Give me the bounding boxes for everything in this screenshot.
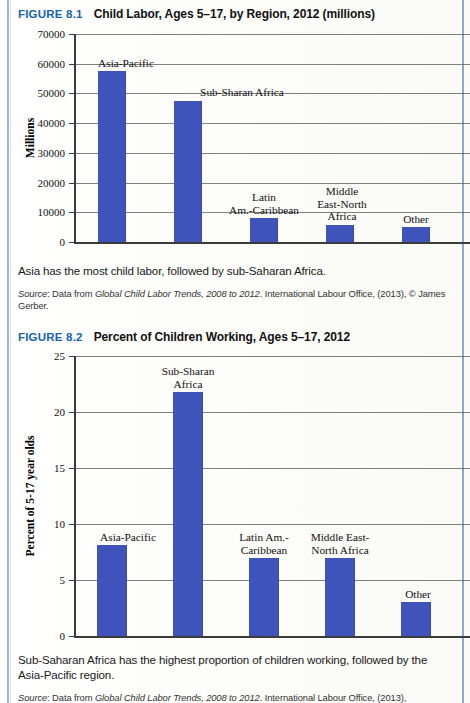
figure-8-2-number: FIGURE 8.2 (18, 331, 83, 343)
figure-8-1-number: FIGURE 8.1 (18, 8, 83, 20)
bar-category-label: Latin Am.-Caribbean (214, 191, 314, 216)
bar (173, 392, 203, 636)
bar (98, 71, 126, 242)
bar (97, 545, 127, 636)
bar (402, 227, 430, 242)
figure-8-2-header: FIGURE 8.2 Percent of Children Working, … (18, 330, 350, 344)
gridline (74, 183, 470, 184)
x-axis-line (74, 242, 470, 244)
gridline (74, 524, 470, 525)
figure-8-1-source-italic: Global Child Labor Trends, 2008 to 2012 (95, 288, 260, 299)
chart-figure-8-1: 010000200003000040000500006000070000Mill… (14, 28, 456, 250)
bar-category-label: Sub-Sharan Africa (142, 365, 234, 390)
gridline (74, 34, 470, 35)
y-axis-tick-label: 20 (14, 406, 65, 418)
bar (250, 218, 278, 242)
gridline (74, 356, 470, 357)
figure-8-2-source-text-a: : Data from (47, 692, 95, 703)
figure-8-2-source: Source: Data from Global Child Labor Tre… (18, 692, 458, 703)
y-axis-tick-label: 25 (14, 350, 65, 362)
y-axis-line (74, 356, 76, 636)
figure-8-2-title: Percent of Children Working, Ages 5–17, … (94, 330, 350, 344)
figure-8-1-header: FIGURE 8.1 Child Labor, Ages 5–17, by Re… (18, 7, 375, 21)
y-axis-title: Percent of 5-17 year olds (24, 436, 36, 557)
y-axis-tick-label: 70000 (14, 28, 65, 40)
figure-8-1-title: Child Labor, Ages 5–17, by Region, 2012 … (94, 7, 375, 21)
bar-category-label: Other (390, 588, 446, 601)
y-axis-line (74, 34, 76, 242)
figure-8-1-source-prefix: Source (18, 288, 47, 299)
figure-8-2-source-text-b: . International Labour Office, (2013), (260, 692, 407, 703)
bar-category-label: Middle East- North Africa (288, 531, 392, 556)
bar-category-label: Sub-Sharan Africa (187, 86, 297, 99)
figure-8-2-source-prefix: Source (18, 692, 47, 703)
figure-8-1-source-text-a: : Data from (47, 288, 95, 299)
y-axis-tick-label: 10000 (14, 206, 65, 218)
y-axis-tick-label: 0 (14, 236, 65, 248)
gridline (74, 123, 470, 124)
figure-8-2-caption: Sub-Saharan Africa has the highest propo… (18, 652, 454, 682)
bar (174, 101, 202, 242)
bar-category-label: Middle East-North Africa (303, 185, 381, 223)
page-left-rule (7, 0, 9, 703)
gridline (74, 468, 470, 469)
bar-category-label: Asia-Pacific (83, 531, 173, 544)
y-axis-tick-label: 10 (14, 518, 65, 530)
y-axis-tick-label: 30000 (14, 147, 65, 159)
page-right-rule (462, 0, 464, 703)
page-left-rule-inner (10, 0, 11, 703)
bar-category-label: Asia-Pacific (84, 57, 168, 70)
figure-8-2-source-italic: Global Child Labor Trends, 2008 to 2012 (95, 692, 260, 703)
bar-category-label: Other (389, 213, 443, 226)
y-axis-tick-label: 20000 (14, 177, 65, 189)
y-axis-title: Millions (24, 118, 36, 158)
bar (325, 558, 355, 636)
gridline (74, 153, 470, 154)
page-content: FIGURE 8.1 Child Labor, Ages 5–17, by Re… (14, 0, 456, 703)
y-axis-tick-label: 50000 (14, 87, 65, 99)
figure-8-1-source: Source: Data from Global Child Labor Tre… (18, 288, 454, 312)
figure-8-1-caption: Asia has the most child labor, followed … (18, 263, 454, 278)
y-axis-tick-label: 5 (14, 574, 65, 586)
chart-figure-8-2: 0510152025Percent of 5-17 year oldsAsia-… (14, 350, 456, 646)
y-axis-tick-label: 15 (14, 462, 65, 474)
bar (326, 225, 354, 242)
y-axis-tick-label: 0 (14, 630, 65, 642)
y-axis-tick-label: 40000 (14, 117, 65, 129)
gridline (74, 412, 470, 413)
bar (401, 602, 431, 636)
x-axis-line (74, 636, 470, 638)
y-axis-tick-label: 60000 (14, 58, 65, 70)
bar (249, 558, 279, 636)
